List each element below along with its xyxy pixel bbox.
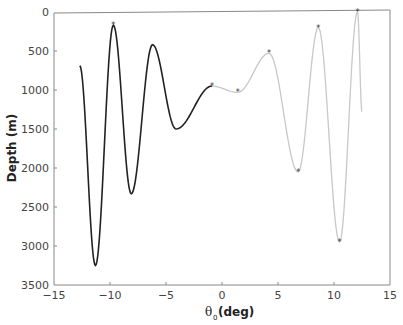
series-line-grey	[212, 12, 362, 242]
marker-star-icon: *	[267, 49, 271, 58]
marker-star-icon: *	[296, 168, 300, 177]
y-tick-label: 3500	[21, 279, 49, 292]
y-tick-label: 0	[42, 6, 49, 19]
y-axis-ticks: 0 500 1000 1500 2000 2500 3000 3500	[21, 6, 57, 292]
x-tick-label: −5	[158, 289, 174, 302]
x-tick-label: 5	[275, 289, 282, 302]
marker-star-icon: *	[236, 88, 240, 97]
y-tick-label: 1500	[21, 123, 49, 136]
x-axis-subscript: 0	[213, 314, 217, 322]
series-line-black	[80, 25, 212, 265]
y-tick-label: 2500	[21, 201, 49, 214]
marker-star-icon: *	[316, 24, 320, 33]
y-tick-label: 3000	[21, 240, 49, 253]
y-tick-label: 500	[28, 45, 49, 58]
marker-star-icon: *	[338, 238, 342, 247]
x-axis-theta: θ	[205, 305, 212, 319]
y-axis-label: Depth (m)	[5, 114, 19, 183]
x-tick-label: 10	[327, 289, 341, 302]
chart: −15 −10 −5 0 5 10 15 0 500 1000 1500 200…	[0, 0, 403, 325]
x-axis-label: θ 0 (deg)	[205, 305, 254, 322]
x-axis-unit: (deg)	[218, 305, 254, 319]
x-tick-label: 15	[383, 289, 397, 302]
marker-star-icon: *	[111, 21, 115, 30]
x-tick-label: 0	[219, 289, 226, 302]
marker-star-icon: *	[210, 82, 214, 91]
marker-star-icon: *	[356, 8, 360, 17]
y-tick-label: 1000	[21, 84, 49, 97]
y-tick-label: 2000	[21, 162, 49, 175]
x-tick-label: −10	[98, 289, 121, 302]
